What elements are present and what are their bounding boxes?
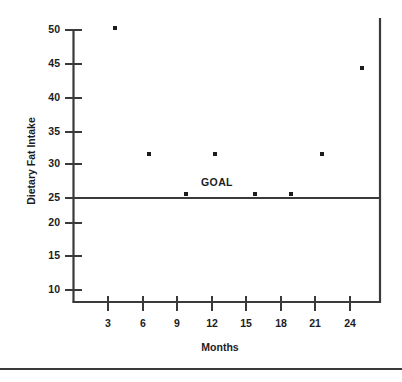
y-axis-title: Dietary Fat Intake [25,106,37,216]
chart-page: 50 45 40 35 30 25 20 15 10 3 6 9 12 15 1… [0,0,402,382]
data-point [320,152,324,156]
data-point [360,66,364,70]
data-point [147,152,151,156]
y-tick-label-20: 20 [36,217,60,228]
x-tick-label-18: 18 [269,318,293,329]
y-tick-label-50: 50 [36,24,60,35]
y-tick-label-45: 45 [36,58,60,69]
x-axis-title: Months [180,341,260,353]
bottom-divider-rule [0,368,402,370]
data-point [289,192,293,196]
y-tick-label-15: 15 [36,250,60,261]
data-point [213,152,217,156]
x-tick-label-24: 24 [338,318,362,329]
data-points [113,26,364,196]
y-tick-label-35: 35 [36,126,60,137]
x-tick-label-3: 3 [96,318,120,329]
data-point [184,192,188,196]
y-tick-label-40: 40 [36,92,60,103]
x-tick-marks [108,296,350,311]
y-tick-label-10: 10 [36,284,60,295]
x-tick-label-15: 15 [234,318,258,329]
goal-annotation-label: GOAL [201,176,233,188]
x-tick-label-12: 12 [200,318,224,329]
y-tick-label-30: 30 [36,158,60,169]
x-tick-label-21: 21 [303,318,327,329]
scatter-plot: 50 45 40 35 30 25 20 15 10 3 6 9 12 15 1… [0,0,402,382]
y-tick-label-25: 25 [36,192,60,203]
data-point [253,192,257,196]
x-tick-label-9: 9 [165,318,189,329]
data-point [113,26,117,30]
x-tick-label-6: 6 [131,318,155,329]
